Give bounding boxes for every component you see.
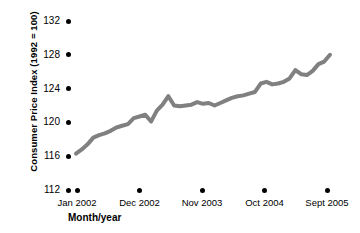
cpi-data-line <box>76 55 330 154</box>
x-tick-label: Sept 2005 <box>305 197 348 208</box>
x-tick-label: Nov 2003 <box>182 197 223 208</box>
x-tick-label: Oct 2004 <box>245 197 284 208</box>
x-axis-title: Month/year <box>68 212 121 223</box>
x-tick-label: Jan 2002 <box>57 197 96 208</box>
cpi-line-chart: Consumer Price Index (1992 = 100) 112116… <box>0 0 360 233</box>
x-tick-label: Dec 2002 <box>119 197 160 208</box>
